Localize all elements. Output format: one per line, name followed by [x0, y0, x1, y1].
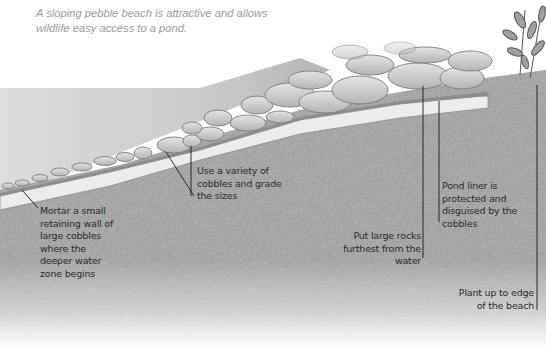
plant: [501, 6, 546, 78]
label-pond-liner: Pond liner is protected and disguised by…: [442, 180, 517, 230]
caption: A sloping pebble beach is attractive and…: [36, 6, 336, 36]
caption-line-1: A sloping pebble beach is attractive and…: [36, 6, 336, 21]
label-mortar-wall: Mortar a small retaining wall of large c…: [40, 205, 113, 280]
pond-beach-diagram: A sloping pebble beach is attractive and…: [0, 0, 546, 348]
caption-line-2: wildlife easy access to a pond.: [36, 21, 336, 36]
label-large-rocks: Put large rocks furthest from the water: [343, 230, 421, 268]
label-plant-edge: Plant up to edge of the beach: [459, 287, 534, 312]
label-variety: Use a variety of cobbles and grade the s…: [197, 165, 282, 203]
